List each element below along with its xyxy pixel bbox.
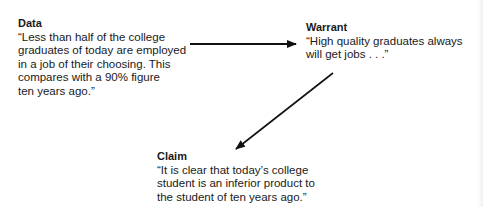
- warrant-text: “High quality graduates always will get …: [306, 35, 481, 62]
- claim-node: Claim “It is clear that today’s college …: [157, 150, 357, 204]
- data-node: Data “Less than half of the college grad…: [18, 17, 193, 99]
- warrant-node: Warrant “High quality graduates always w…: [306, 21, 481, 62]
- data-text: “Less than half of the college graduates…: [18, 31, 193, 99]
- warrant-to-claim-arrow: [236, 73, 333, 149]
- data-heading: Data: [18, 17, 193, 31]
- claim-heading: Claim: [157, 150, 357, 164]
- warrant-heading: Warrant: [306, 21, 481, 35]
- claim-text: “It is clear that today’s college studen…: [157, 164, 357, 205]
